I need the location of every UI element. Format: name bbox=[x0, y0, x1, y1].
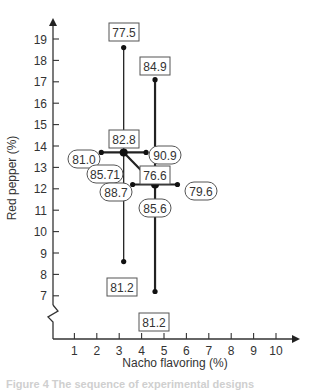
design-point bbox=[121, 259, 126, 264]
design-point bbox=[99, 150, 104, 155]
response-value: 84.9 bbox=[143, 60, 167, 74]
response-value: 82.8 bbox=[112, 133, 136, 147]
response-box-label: 82.8 bbox=[109, 130, 139, 148]
y-tick-label: 13 bbox=[34, 161, 48, 175]
design-point bbox=[152, 77, 157, 82]
y-tick-label: 15 bbox=[34, 118, 48, 132]
y-tick-label: 17 bbox=[34, 75, 48, 89]
y-ticks: 78910111213141516171819 bbox=[34, 33, 59, 304]
design-point bbox=[175, 182, 180, 187]
y-tick-label: 14 bbox=[34, 140, 48, 154]
x-axis-title: Nacho flavoring (%) bbox=[122, 356, 227, 370]
y-tick-label: 10 bbox=[34, 225, 48, 239]
y-axis-title: Red pepper (%) bbox=[5, 136, 19, 221]
x-tick-label: 2 bbox=[93, 344, 100, 358]
y-tick-label: 19 bbox=[34, 33, 48, 47]
y-tick-label: 16 bbox=[34, 97, 48, 111]
design-point bbox=[121, 45, 126, 50]
design-point bbox=[130, 182, 135, 187]
response-box-label: 81.2 bbox=[139, 313, 169, 331]
x-tick-label: 9 bbox=[250, 344, 257, 358]
center-point bbox=[120, 148, 128, 156]
x-ticks: 12345678910 bbox=[71, 333, 283, 358]
x-tick-label: 1 bbox=[71, 344, 78, 358]
response-value: 90.9 bbox=[153, 149, 177, 163]
response-value: 88.7 bbox=[104, 186, 128, 200]
figure-caption: Figure 4 The sequence of experimental de… bbox=[6, 378, 254, 390]
y-tick-label: 9 bbox=[40, 247, 47, 261]
x-tick-label: 8 bbox=[228, 344, 235, 358]
y-axis-break-icon bbox=[48, 305, 58, 339]
response-oval-label: 90.9 bbox=[149, 146, 181, 164]
response-value: 85.71 bbox=[90, 168, 120, 182]
y-tick-label: 7 bbox=[40, 289, 47, 303]
response-oval-label: 85.6 bbox=[139, 199, 171, 217]
y-tick-label: 11 bbox=[35, 204, 48, 218]
data-labels: 82.876.677.581.281.090.985.7184.981.288.… bbox=[68, 23, 217, 331]
design-point bbox=[143, 150, 148, 155]
y-tick-label: 8 bbox=[40, 268, 47, 282]
response-oval-label: 85.71 bbox=[87, 165, 123, 183]
response-value: 77.5 bbox=[112, 26, 136, 40]
response-oval-label: 88.7 bbox=[100, 183, 132, 201]
response-value: 76.6 bbox=[143, 169, 167, 183]
x-tick-label: 10 bbox=[269, 344, 283, 358]
response-value: 81.2 bbox=[110, 281, 134, 295]
response-box-label: 77.5 bbox=[109, 23, 139, 41]
response-value: 79.6 bbox=[189, 185, 213, 199]
response-box-label: 81.2 bbox=[107, 278, 137, 296]
response-oval-label: 79.6 bbox=[185, 182, 217, 200]
response-value: 85.6 bbox=[143, 202, 167, 216]
response-value: 81.0 bbox=[72, 153, 96, 167]
design-point bbox=[152, 289, 157, 294]
response-box-label: 76.6 bbox=[140, 166, 170, 184]
response-value: 81.2 bbox=[142, 316, 166, 330]
y-tick-label: 18 bbox=[34, 54, 48, 68]
response-box-label: 84.9 bbox=[140, 57, 170, 75]
y-tick-label: 12 bbox=[34, 182, 48, 196]
